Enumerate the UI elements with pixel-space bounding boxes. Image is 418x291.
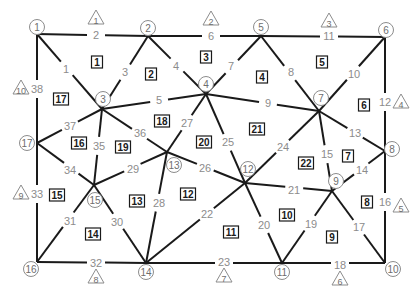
edge-label: 9	[265, 97, 271, 109]
node-label: 7	[318, 93, 324, 104]
face-13: 13	[130, 195, 145, 207]
node-15[interactable]: 15	[88, 193, 103, 208]
node-label: 9	[333, 176, 339, 187]
edge-label: 18	[334, 259, 346, 271]
node-4[interactable]: 4	[199, 77, 214, 92]
edge-label: 10	[348, 68, 360, 80]
face-label: 16	[73, 138, 85, 149]
edge-label: 12	[379, 96, 391, 108]
boundary-marker-label: 1	[93, 16, 98, 26]
edge-label: 11	[323, 30, 334, 42]
node-14[interactable]: 14	[139, 265, 154, 280]
edge-label: 32	[90, 257, 102, 269]
edge-label: 23	[218, 256, 230, 268]
face-label: 11	[226, 227, 237, 238]
face-12: 12	[181, 188, 196, 200]
face-label: 20	[198, 137, 210, 148]
node-label: 10	[387, 264, 399, 275]
node-label: 15	[89, 195, 101, 206]
boundary-marker-label: 5	[398, 204, 403, 214]
edge-5	[102, 94, 206, 109]
boundary-marker-7: 7	[216, 268, 232, 284]
node-11[interactable]: 11	[275, 265, 290, 280]
edge-label: 6	[208, 30, 214, 42]
boundary-marker-9: 9	[13, 185, 29, 201]
face-label: 18	[156, 116, 168, 127]
face-label: 12	[182, 189, 194, 200]
face-8: 8	[362, 196, 373, 208]
face-4: 4	[257, 71, 268, 83]
node-6[interactable]: 6	[379, 23, 394, 38]
boundary-marker-1: 1	[88, 10, 104, 26]
face-10: 10	[280, 209, 295, 221]
face-2: 2	[146, 68, 157, 80]
edge-label: 24	[277, 141, 289, 153]
node-3[interactable]: 3	[96, 92, 111, 107]
edge-label: 4	[173, 60, 179, 72]
edge-label: 1	[63, 63, 69, 75]
face-label: 6	[361, 100, 367, 111]
face-9: 9	[327, 231, 338, 243]
node-label: 1	[34, 22, 40, 33]
edge-label: 31	[64, 215, 76, 227]
face-14: 14	[86, 228, 101, 240]
node-12[interactable]: 12	[241, 162, 256, 177]
edge-label: 3	[122, 66, 128, 78]
face-label: 7	[345, 151, 351, 162]
edge-label: 7	[228, 60, 234, 72]
edge-1	[37, 34, 102, 109]
face-5: 5	[317, 56, 328, 68]
face-19: 19	[116, 141, 131, 153]
node-1[interactable]: 1	[30, 20, 45, 35]
face-label: 5	[319, 57, 325, 68]
boundary-marker-label: 8	[93, 275, 98, 285]
boundary-marker-5: 5	[393, 198, 409, 214]
boundary-marker-label: 7	[221, 274, 226, 284]
face-label: 9	[329, 232, 335, 243]
boundary-marker-label: 10	[16, 86, 26, 96]
node-9[interactable]: 9	[329, 174, 344, 189]
edge-label: 13	[349, 127, 361, 139]
face-7: 7	[343, 150, 354, 162]
edge-label: 29	[127, 163, 139, 175]
edge-label: 5	[156, 94, 162, 106]
face-6: 6	[359, 99, 370, 111]
face-label: 17	[55, 94, 67, 105]
edge-label: 20	[258, 219, 270, 231]
face-label: 4	[259, 72, 265, 83]
edge-label: 21	[288, 184, 300, 196]
face-label: 3	[203, 52, 209, 63]
boundary-marker-label: 4	[398, 100, 403, 110]
node-label: 4	[203, 79, 209, 90]
edge-label: 27	[181, 117, 193, 129]
face-label: 21	[251, 124, 263, 135]
node-7[interactable]: 7	[314, 91, 329, 106]
node-13[interactable]: 13	[167, 158, 182, 173]
edge-label: 30	[111, 216, 123, 228]
edge-label: 22	[201, 208, 213, 220]
node-17[interactable]: 17	[20, 136, 35, 151]
node-16[interactable]: 16	[24, 262, 39, 277]
face-22: 22	[299, 157, 314, 169]
node-label: 11	[277, 267, 288, 278]
edge-label: 2	[93, 29, 99, 41]
node-5[interactable]: 5	[254, 20, 269, 35]
node-label: 12	[242, 164, 254, 175]
edge-label: 15	[321, 148, 333, 160]
node-2[interactable]: 2	[141, 21, 156, 36]
face-label: 1	[94, 57, 100, 68]
face-1: 1	[92, 56, 103, 68]
face-label: 22	[300, 158, 312, 169]
face-label: 2	[148, 69, 154, 80]
node-8[interactable]: 8	[385, 142, 400, 157]
face-20: 20	[197, 136, 212, 148]
boundary-marker-6: 6	[332, 271, 348, 287]
node-10[interactable]: 10	[386, 262, 401, 277]
face-21: 21	[250, 123, 265, 135]
node-label: 6	[383, 25, 389, 36]
face-18: 18	[155, 115, 170, 127]
edge-label: 19	[305, 218, 317, 230]
boundary-marker-3: 3	[321, 13, 337, 29]
node-label: 8	[389, 144, 395, 155]
face-label: 13	[131, 196, 143, 207]
